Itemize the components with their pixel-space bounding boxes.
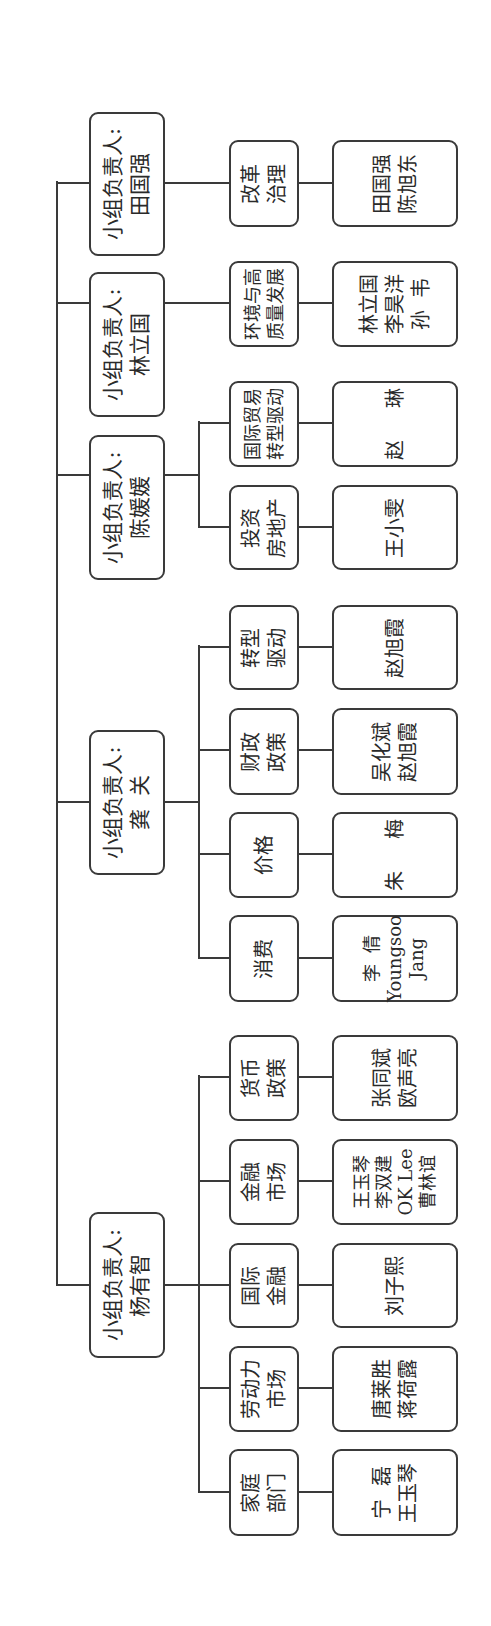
member-name: 王小雯 bbox=[382, 498, 408, 558]
member-box: 吴化斌 赵旭霞 bbox=[332, 708, 458, 795]
leader-label: 小组负责人: bbox=[100, 128, 127, 240]
topic-box-reform-governance: 改革 治理 bbox=[229, 140, 299, 227]
topic-member-line bbox=[299, 526, 332, 528]
member-name: 宁 磊 bbox=[369, 1466, 395, 1519]
leader-to-subtrunk-line bbox=[165, 474, 199, 476]
topic-label: 房地产 bbox=[264, 498, 290, 558]
leader-to-subtrunk-line bbox=[165, 1284, 199, 1286]
topic-stub-line bbox=[198, 1180, 229, 1182]
member-box: 田国强 陈旭东 bbox=[332, 140, 458, 227]
member-name: 李双建 bbox=[373, 1155, 395, 1209]
member-name: 孙 韦 bbox=[408, 278, 434, 331]
member-box: 刘子熙 bbox=[332, 1243, 458, 1328]
topic-member-line bbox=[299, 302, 332, 304]
topic-stub-line bbox=[198, 749, 229, 751]
topic-label: 改革 bbox=[238, 164, 264, 204]
topic-box-consumption: 消费 bbox=[229, 915, 299, 1002]
member-name: 陈旭东 bbox=[395, 154, 421, 214]
topic-member-line bbox=[299, 422, 332, 424]
member-name: 李昊洋 bbox=[382, 274, 408, 334]
leader-to-topic-line bbox=[165, 302, 229, 304]
leader-name: 田国强 bbox=[127, 153, 154, 216]
leader-label: 小组负责人: bbox=[100, 288, 127, 400]
topic-label: 劳动力 bbox=[238, 1359, 264, 1419]
leader-label: 小组负责人: bbox=[100, 1229, 127, 1341]
group-leader-box: 小组负责人: 陈媛媛 bbox=[89, 435, 165, 580]
topic-label: 转型 bbox=[238, 628, 264, 668]
topic-label: 国际贸易 bbox=[241, 388, 264, 460]
topic-stub-line bbox=[198, 1491, 229, 1493]
topic-stub-line bbox=[198, 1076, 229, 1078]
member-name: 赵 琳 bbox=[382, 388, 408, 460]
topic-label: 驱动 bbox=[264, 628, 290, 668]
member-name: Jang bbox=[406, 938, 429, 979]
topic-box-investment-real-estate: 投资 房地产 bbox=[229, 485, 299, 570]
leader-connector bbox=[56, 801, 89, 803]
member-name: 唐莱胜 bbox=[369, 1359, 395, 1419]
topic-stub-line bbox=[198, 853, 229, 855]
member-name: OK Lee bbox=[395, 1148, 417, 1215]
topic-box-financial-market: 金融 市场 bbox=[229, 1139, 299, 1225]
member-name: Youngsoo bbox=[384, 915, 407, 1002]
topic-label: 投资 bbox=[238, 508, 264, 548]
leader-label: 小组负责人: bbox=[100, 746, 127, 858]
topic-label: 金融 bbox=[238, 1162, 264, 1202]
topic-stub-line bbox=[198, 646, 229, 648]
group-leader-box: 小组负责人: 龚 关 bbox=[89, 730, 165, 875]
member-name: 朱 梅 bbox=[382, 819, 408, 891]
topic-label: 家庭 bbox=[238, 1473, 264, 1513]
leader-connector bbox=[56, 474, 89, 476]
leader-label: 小组负责人: bbox=[100, 451, 127, 563]
topic-member-line bbox=[299, 853, 332, 855]
topic-member-line bbox=[299, 1284, 332, 1286]
topic-label: 政策 bbox=[264, 1058, 290, 1098]
member-box: 王玉琴 李双建 OK Lee 曹林谊 bbox=[332, 1139, 458, 1225]
topic-box-intl-trade: 国际贸易 转型驱动 bbox=[229, 381, 299, 467]
member-name: 欧声亮 bbox=[395, 1048, 421, 1108]
topic-member-line bbox=[299, 749, 332, 751]
member-name: 王玉琴 bbox=[395, 1463, 421, 1523]
member-box: 张同斌 欧声亮 bbox=[332, 1035, 458, 1121]
member-box: 朱 梅 bbox=[332, 812, 458, 898]
member-name: 赵旭霞 bbox=[382, 618, 408, 678]
member-name: 王玉琴 bbox=[351, 1155, 373, 1209]
leader-connector bbox=[56, 1284, 89, 1286]
member-box: 王小雯 bbox=[332, 485, 458, 570]
topic-stub-line bbox=[198, 957, 229, 959]
member-box: 林立国 李昊洋 孙 韦 bbox=[332, 261, 458, 347]
leader-to-topic-line bbox=[165, 182, 229, 184]
topic-label: 治理 bbox=[264, 164, 290, 204]
topic-box-intl-finance: 国际 金融 bbox=[229, 1243, 299, 1328]
topic-member-line bbox=[299, 1180, 332, 1182]
topic-label: 部门 bbox=[264, 1473, 290, 1513]
group-leader-box: 小组负责人: 林立国 bbox=[89, 272, 165, 417]
topic-stub-line bbox=[198, 526, 229, 528]
member-name: 吴化斌 bbox=[369, 722, 395, 782]
org-chart: 小组负责人: 杨有智 小组负责人: 龚 关 小组负责人: 陈媛媛 小组负责人: … bbox=[0, 0, 491, 1626]
topic-member-line bbox=[299, 1491, 332, 1493]
subtrunk-line bbox=[198, 645, 200, 958]
member-name: 林立国 bbox=[356, 274, 382, 334]
topic-box-price: 价格 bbox=[229, 812, 299, 898]
topic-label: 金融 bbox=[264, 1266, 290, 1306]
topic-member-line bbox=[299, 957, 332, 959]
member-name: 赵旭霞 bbox=[395, 722, 421, 782]
leader-name: 杨有智 bbox=[127, 1254, 154, 1317]
topic-member-line bbox=[299, 182, 332, 184]
topic-label: 环境与高 bbox=[241, 268, 264, 340]
group-leader-box: 小组负责人: 杨有智 bbox=[89, 1212, 165, 1358]
topic-stub-line bbox=[198, 422, 229, 424]
member-box: 赵 琳 bbox=[332, 381, 458, 467]
topic-stub-line bbox=[198, 1284, 229, 1286]
topic-member-line bbox=[299, 1076, 332, 1078]
leader-to-subtrunk-line bbox=[165, 801, 199, 803]
main-trunk-line bbox=[56, 181, 58, 1285]
topic-box-fiscal-policy: 财政 政策 bbox=[229, 708, 299, 795]
topic-label: 财政 bbox=[238, 732, 264, 772]
leader-name: 龚 关 bbox=[127, 775, 154, 830]
topic-member-line bbox=[299, 646, 332, 648]
leader-name: 林立国 bbox=[127, 313, 154, 376]
topic-label: 货币 bbox=[238, 1058, 264, 1098]
topic-label: 国际 bbox=[238, 1266, 264, 1306]
member-name: 张同斌 bbox=[369, 1048, 395, 1108]
